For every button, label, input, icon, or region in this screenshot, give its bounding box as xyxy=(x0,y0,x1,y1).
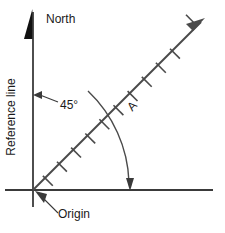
north-label: North xyxy=(46,13,75,25)
diagram-canvas xyxy=(0,0,225,233)
vector-line xyxy=(33,22,201,190)
vector-arrowhead-icon xyxy=(186,18,205,31)
angle-arc xyxy=(88,91,129,182)
bearing-diagram: North Reference line 45° A Origin xyxy=(0,0,225,233)
origin-label-leader-line xyxy=(44,199,58,213)
reference-line-label: Reference line xyxy=(5,78,17,155)
origin-label: Origin xyxy=(58,208,90,220)
angle-label-leader-line xyxy=(40,95,58,102)
angle-arc-arrowhead-icon xyxy=(126,178,134,191)
angle-label: 45° xyxy=(60,99,78,111)
origin-leader-arrowhead-icon xyxy=(35,191,47,203)
angle-leader-arrowhead-icon xyxy=(33,91,42,99)
north-arrowhead-icon xyxy=(24,9,32,39)
